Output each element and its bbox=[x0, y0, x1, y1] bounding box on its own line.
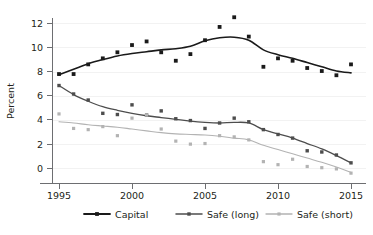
data-point bbox=[189, 143, 192, 146]
data-point bbox=[218, 25, 222, 29]
y-tick-label: 10 bbox=[31, 42, 43, 53]
y-tick-label: 6 bbox=[37, 90, 43, 101]
data-point bbox=[145, 40, 149, 44]
x-tick-label: 2005 bbox=[193, 190, 217, 201]
data-point bbox=[247, 35, 251, 39]
data-point bbox=[189, 52, 193, 56]
data-point bbox=[116, 134, 119, 137]
data-point bbox=[262, 160, 265, 163]
y-tick-label: 8 bbox=[37, 66, 43, 77]
y-tick-label: 4 bbox=[37, 114, 43, 125]
data-point bbox=[203, 142, 206, 145]
legend-item-safe-short[interactable]: Safe (short) bbox=[266, 209, 353, 220]
chart-container: 024681012 19952000200520102015 Percent C… bbox=[0, 0, 373, 235]
data-point bbox=[57, 84, 60, 87]
legend-item-safe-long[interactable]: Safe (long) bbox=[176, 209, 259, 220]
x-tick-label: 2010 bbox=[266, 190, 290, 201]
gridlines bbox=[53, 24, 367, 169]
data-point bbox=[203, 38, 207, 42]
data-point bbox=[291, 158, 294, 161]
y-tick-label: 12 bbox=[31, 18, 43, 29]
data-point bbox=[349, 161, 352, 164]
data-point bbox=[87, 98, 90, 101]
x-axis-ticks: 19952000200520102015 bbox=[47, 184, 363, 202]
data-point bbox=[101, 56, 105, 60]
data-point bbox=[262, 128, 265, 131]
data-point bbox=[247, 120, 250, 123]
data-point bbox=[86, 62, 90, 66]
legend-label: Capital bbox=[115, 209, 148, 220]
data-point bbox=[262, 65, 266, 69]
y-axis-ticks: 024681012 bbox=[31, 18, 53, 174]
y-axis-label: Percent bbox=[5, 83, 16, 119]
data-point bbox=[116, 113, 119, 116]
data-point bbox=[145, 114, 148, 117]
data-point bbox=[101, 112, 104, 115]
data-point bbox=[349, 62, 353, 66]
x-tick-label: 2000 bbox=[120, 190, 144, 201]
legend-marker bbox=[187, 212, 190, 215]
legend-label: Safe (long) bbox=[207, 209, 259, 220]
data-point bbox=[160, 127, 163, 130]
data-point bbox=[57, 72, 61, 76]
data-point bbox=[203, 127, 206, 130]
y-tick-label: 2 bbox=[37, 139, 43, 150]
data-point bbox=[130, 117, 133, 120]
data-point bbox=[247, 138, 250, 141]
data-point bbox=[72, 92, 75, 95]
data-point bbox=[291, 136, 294, 139]
data-point bbox=[320, 69, 324, 73]
data-point bbox=[335, 153, 338, 156]
data-point bbox=[57, 112, 60, 115]
data-point bbox=[130, 103, 133, 106]
legend-marker bbox=[95, 212, 99, 216]
data-point bbox=[72, 127, 75, 130]
data-point bbox=[159, 50, 163, 54]
data-point bbox=[116, 50, 120, 54]
legend-item-capital[interactable]: Capital bbox=[84, 209, 148, 220]
x-tick-label: 2015 bbox=[339, 190, 363, 201]
data-point bbox=[174, 117, 177, 120]
legend-marker bbox=[277, 212, 280, 215]
data-point bbox=[218, 121, 221, 124]
data-point bbox=[232, 15, 236, 19]
data-point bbox=[276, 163, 279, 166]
data-point bbox=[87, 128, 90, 131]
data-point bbox=[305, 66, 309, 70]
data-point bbox=[160, 109, 163, 112]
data-point bbox=[174, 140, 177, 143]
data-point bbox=[291, 59, 295, 63]
data-point bbox=[189, 119, 192, 122]
data-point bbox=[306, 165, 309, 168]
data-point bbox=[72, 72, 76, 76]
data-point bbox=[276, 133, 279, 136]
chart-legend: CapitalSafe (long)Safe (short) bbox=[84, 209, 353, 220]
y-tick-label: 0 bbox=[37, 163, 43, 174]
data-point bbox=[349, 172, 352, 175]
data-point bbox=[320, 150, 323, 153]
legend-label: Safe (short) bbox=[297, 209, 353, 220]
data-point bbox=[174, 59, 178, 63]
data-point bbox=[233, 135, 236, 138]
data-series bbox=[57, 15, 353, 174]
data-point bbox=[101, 125, 104, 128]
data-point bbox=[320, 166, 323, 169]
data-point bbox=[335, 167, 338, 170]
data-point bbox=[218, 134, 221, 137]
x-tick-label: 1995 bbox=[47, 190, 71, 201]
data-point bbox=[130, 43, 134, 47]
data-point bbox=[335, 73, 339, 77]
series-capital bbox=[57, 15, 353, 77]
data-point bbox=[233, 116, 236, 119]
line-scatter-chart: 024681012 19952000200520102015 Percent C… bbox=[0, 0, 373, 235]
data-point bbox=[276, 56, 280, 60]
data-point bbox=[306, 149, 309, 152]
